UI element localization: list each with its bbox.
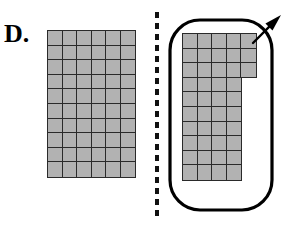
dashed-separator (151, 0, 163, 227)
pointer-arrow (253, 15, 281, 43)
left-grid-array (47, 30, 135, 178)
panel-label: D. (4, 21, 29, 47)
left-grid-cell (120, 161, 136, 177)
pointer-arrow-head (265, 15, 281, 31)
right-grid-cell (226, 164, 242, 180)
right-grid-cell (240, 62, 256, 78)
right-grid-array (182, 33, 255, 181)
figure-panel: D. (0, 0, 286, 227)
right-grid-row (182, 164, 255, 180)
left-grid-row (47, 161, 135, 177)
